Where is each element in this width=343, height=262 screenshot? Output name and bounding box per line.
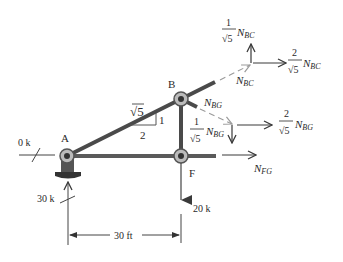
joint-label-B: B — [168, 78, 175, 90]
joint-label-F: F — [189, 167, 195, 179]
reaction-horizontal-A: 0 k — [18, 137, 55, 162]
force-N_FG: NFG — [222, 155, 272, 176]
dimension-30ft: 30 ft — [69, 230, 180, 241]
svg-text:NBG: NBG — [294, 118, 313, 132]
joint-label-A: A — [61, 132, 69, 144]
slope-hyp-label: √5 — [130, 104, 144, 119]
svg-text:√5: √5 — [288, 64, 299, 75]
load-F-label: 20 k — [193, 203, 211, 214]
joint-A — [60, 149, 74, 163]
N_BC-label: NBC — [235, 74, 254, 88]
force-N_BG-horizontal: 2 √5 NBG — [237, 108, 313, 136]
svg-text:1: 1 — [226, 17, 231, 28]
reaction-horizontal-label: 0 k — [18, 137, 31, 148]
joint-B — [174, 92, 188, 106]
force-N_BC-horizontal: 2 √5 NBC — [253, 47, 321, 75]
slope-rise-label: 1 — [159, 114, 165, 126]
joint-F — [174, 149, 188, 163]
N_FG-label: NFG — [253, 162, 272, 176]
svg-text:NBG: NBG — [205, 125, 224, 139]
force-N_BC: NBC — [220, 65, 254, 88]
reaction-vertical-A: 30 k — [37, 182, 75, 245]
force-N_BG-vertical: 1 √5 NBG — [190, 116, 232, 144]
svg-text:√5: √5 — [279, 125, 290, 136]
svg-text:1: 1 — [194, 116, 199, 127]
truss-diagram: √5 1 2 A B F 0 k 30 k 2 — [0, 0, 343, 262]
force-N_BG: NBG — [200, 96, 232, 124]
reaction-vertical-label: 30 k — [37, 193, 55, 204]
dimension-label: 30 ft — [114, 230, 133, 241]
svg-text:NBC: NBC — [302, 57, 321, 71]
svg-text:√5: √5 — [190, 133, 201, 144]
svg-text:√5: √5 — [222, 33, 233, 44]
force-N_BC-vertical: 1 √5 NBC — [222, 17, 255, 63]
svg-text:NBC: NBC — [236, 26, 255, 40]
svg-text:2: 2 — [292, 47, 297, 58]
member-AB — [67, 99, 181, 156]
slope-run-label: 2 — [140, 129, 146, 141]
svg-text:2: 2 — [284, 108, 289, 119]
N_BG-label: NBG — [203, 96, 222, 110]
load-F: 20 k — [181, 163, 211, 243]
